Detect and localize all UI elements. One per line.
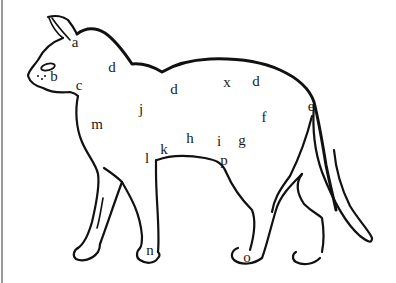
- whisker-dots: [37, 75, 46, 80]
- label-i: i: [217, 134, 221, 149]
- belly-outline: [156, 156, 226, 172]
- front-near-leg: [122, 182, 142, 248]
- front-far-leg-detail: [97, 198, 103, 228]
- label-d-neck: d: [108, 60, 116, 75]
- ear-inner: [49, 18, 70, 40]
- label-o: o: [243, 250, 251, 265]
- front-far-leg: [100, 168, 122, 244]
- label-e: e: [308, 99, 315, 114]
- label-p: p: [220, 153, 228, 168]
- label-g: g: [238, 133, 246, 148]
- label-m: m: [91, 117, 103, 132]
- label-f: f: [262, 110, 267, 125]
- label-a: a: [72, 35, 79, 50]
- label-h: h: [186, 131, 194, 146]
- front-near-leg-back: [156, 172, 159, 252]
- hind-far-leg: [298, 174, 324, 252]
- label-l: l: [145, 151, 149, 166]
- cat-outline-drawing: [0, 0, 396, 283]
- hind-near-leg: [226, 172, 254, 250]
- label-j: j: [139, 102, 143, 117]
- label-b: b: [50, 69, 58, 84]
- hind-upper: [272, 116, 312, 212]
- diagram-canvas: a b c d d x d e f g i h j k l m p n o: [0, 0, 396, 283]
- label-n: n: [146, 243, 154, 258]
- label-c: c: [76, 78, 83, 93]
- label-x: x: [223, 75, 231, 90]
- paw-hind-far: [293, 252, 320, 264]
- label-d-shoulder: d: [170, 82, 178, 97]
- label-k: k: [160, 142, 168, 157]
- label-d-back: d: [252, 74, 260, 89]
- paw-front-far: [74, 244, 100, 260]
